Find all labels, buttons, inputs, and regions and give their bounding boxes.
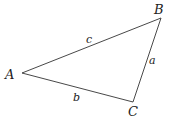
side-a-line (133, 18, 161, 102)
vertex-c-label: C (128, 104, 138, 119)
vertex-b-label: B (153, 2, 164, 17)
triangle-diagram: A B C c a b (0, 0, 174, 122)
vertex-a-label: A (4, 67, 14, 82)
side-b-label: b (73, 91, 80, 104)
side-a-label: a (149, 54, 156, 67)
side-c-label: c (86, 33, 92, 46)
